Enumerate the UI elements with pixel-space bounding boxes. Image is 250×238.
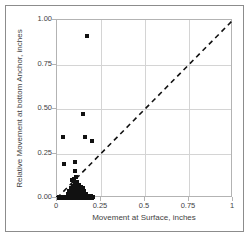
y-axis-tick-label: 1.00 <box>26 15 52 23</box>
one-to-one-reference-line <box>57 20 233 198</box>
x-axis-tick-mark <box>232 197 233 201</box>
y-axis-tick-labels: 0.000.250.500.751.00 <box>22 19 52 197</box>
data-point <box>72 196 76 200</box>
x-axis-tick-mark <box>144 197 145 201</box>
data-point <box>83 135 87 139</box>
x-axis-tick-label: 0.5 <box>129 202 159 210</box>
y-axis-tick-mark <box>52 19 56 20</box>
x-axis-tick-mark <box>100 197 101 201</box>
x-axis-tick-label: 0 <box>41 202 71 210</box>
scatter-chart-figure: 0.000.250.500.751.00 00.250.50.751 Movem… <box>0 0 250 238</box>
x-axis-tick-mark <box>56 197 57 201</box>
x-axis-tick-label: 0.25 <box>85 202 115 210</box>
data-point <box>61 135 65 139</box>
data-point <box>90 196 94 200</box>
x-axis-tick-label: 0.75 <box>173 202 203 210</box>
y-axis-tick-label: 0.50 <box>26 104 52 112</box>
y-axis-tick-label: 0.00 <box>26 193 52 201</box>
data-point <box>81 112 85 116</box>
data-point <box>73 160 77 164</box>
plot-area <box>56 19 232 197</box>
x-axis-tick-label: 1 <box>217 202 247 210</box>
x-axis-tick-labels: 00.250.50.751 <box>56 200 232 212</box>
y-axis-tick-mark <box>52 153 56 154</box>
x-axis-title: Movement at Surface, inches <box>56 213 232 222</box>
y-axis-tick-mark <box>52 108 56 109</box>
y-axis-tick-label: 0.25 <box>26 149 52 157</box>
y-axis-tick-mark <box>52 64 56 65</box>
data-point <box>90 139 94 143</box>
data-point <box>62 162 66 166</box>
y-axis-title: Relative Movement at bottom Anchor, inch… <box>15 20 24 198</box>
data-point <box>73 169 77 173</box>
y-axis-tick-label: 0.75 <box>26 60 52 68</box>
data-point <box>85 34 89 38</box>
x-axis-tick-mark <box>188 197 189 201</box>
